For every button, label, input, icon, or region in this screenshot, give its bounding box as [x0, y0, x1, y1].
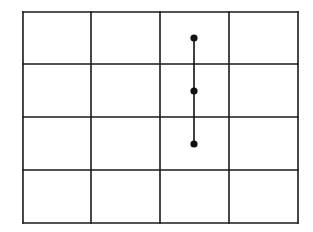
point-dot	[190, 140, 197, 147]
point-dot	[190, 34, 197, 41]
grid-diagram	[0, 0, 313, 232]
point-dot	[190, 87, 197, 94]
grid-lines	[23, 12, 298, 223]
